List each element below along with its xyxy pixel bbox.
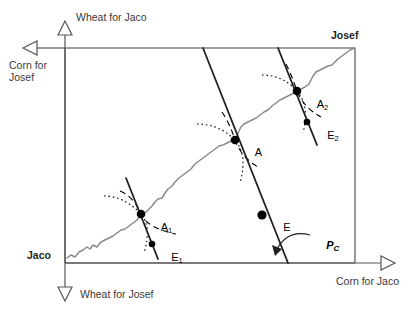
point-label-E1-sub: 1 bbox=[179, 256, 183, 265]
point-label-E2-text: E bbox=[327, 129, 334, 141]
axis-label-corn-for-jaco: Corn for Jaco bbox=[336, 275, 399, 287]
point-label-E2: E2 bbox=[315, 116, 339, 155]
point-label-E: E bbox=[271, 208, 291, 247]
price-line-label-text: P bbox=[326, 239, 333, 251]
price-line-label: PC bbox=[314, 226, 339, 265]
diagram-canvas bbox=[0, 0, 419, 316]
point-label-A1-sub: 1 bbox=[168, 226, 172, 235]
point-label-A2-sub: 2 bbox=[324, 103, 328, 112]
edgeworth-box-figure: Wheat for Jaco Corn for Josef Wheat for … bbox=[0, 0, 419, 316]
point-A2 bbox=[293, 87, 302, 96]
indifference-curve-josef-a2 bbox=[262, 75, 305, 133]
axis-label-wheat-for-josef: Wheat for Josef bbox=[80, 288, 154, 300]
point-label-A1-text: A bbox=[161, 221, 168, 233]
contract-curve bbox=[67, 48, 355, 258]
axis-label-corn-for-josef: Corn for Josef bbox=[9, 59, 47, 84]
point-A1 bbox=[137, 210, 146, 219]
indifference-curve-josef-a1 bbox=[104, 196, 147, 253]
origin-label-josef: Josef bbox=[331, 29, 358, 41]
arrow-right-icon bbox=[381, 256, 395, 270]
point-E bbox=[257, 210, 266, 219]
point-label-E-text: E bbox=[283, 221, 290, 233]
point-label-A: A bbox=[243, 133, 262, 172]
price-line-label-sub: C bbox=[334, 244, 340, 253]
point-label-E1-text: E bbox=[171, 251, 178, 263]
point-label-E1: E1 bbox=[159, 238, 183, 277]
axis-label-wheat-for-jaco: Wheat for Jaco bbox=[76, 11, 147, 23]
arrow-left-icon bbox=[23, 41, 37, 55]
point-A bbox=[231, 136, 240, 145]
point-label-E2-sub: 2 bbox=[335, 134, 339, 143]
point-label-A-text: A bbox=[255, 146, 262, 158]
arrow-up-icon bbox=[58, 21, 72, 35]
point-label-A2-text: A bbox=[317, 98, 324, 110]
origin-label-jaco: Jaco bbox=[27, 249, 51, 261]
arrow-down-icon bbox=[58, 287, 72, 301]
